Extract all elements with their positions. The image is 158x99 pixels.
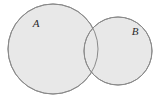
venn-diagram-canvas: A B (0, 0, 158, 99)
venn-diagram-figure: A B (0, 0, 158, 99)
set-b-label: B (132, 25, 139, 37)
set-a-label: A (32, 17, 40, 29)
